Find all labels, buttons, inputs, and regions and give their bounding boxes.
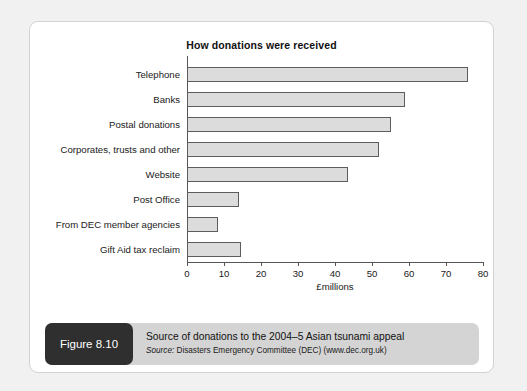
figure-number-badge: Figure 8.10 [45, 323, 133, 365]
x-axis-tick-label: 60 [394, 268, 424, 279]
bar [187, 192, 239, 207]
chart-container: How donations were received TelephoneBan… [30, 22, 493, 312]
category-label: Website [28, 170, 180, 180]
figure-caption-band: Figure 8.10 Source of donations to the 2… [45, 323, 479, 365]
source-prefix: Source: [146, 346, 174, 355]
bar [187, 92, 405, 107]
x-axis-tick-label: 40 [320, 268, 350, 279]
x-axis-tick [372, 262, 373, 266]
bar [187, 142, 379, 157]
category-axis-labels: TelephoneBanksPostal donationsCorporates… [30, 62, 185, 262]
chart-title: How donations were received [30, 39, 493, 51]
x-axis-tick [224, 262, 225, 266]
x-axis-tick-label: 50 [357, 268, 387, 279]
x-axis-tick-label: 10 [209, 268, 239, 279]
figure-caption-text: Source of donations to the 2004–5 Asian … [146, 330, 471, 356]
x-axis-title: £millions [187, 281, 483, 292]
category-label: Corporates, trusts and other [28, 145, 180, 155]
x-axis-tick [409, 262, 410, 266]
x-axis-tick [335, 262, 336, 266]
x-axis-tick-label: 70 [431, 268, 461, 279]
category-label: From DEC member agencies [28, 220, 180, 230]
x-axis-tick [187, 262, 188, 266]
x-axis-tick-label: 0 [172, 268, 202, 279]
x-axis-tick [483, 262, 484, 266]
bar [187, 242, 241, 257]
bar [187, 217, 218, 232]
x-axis-tick-label: 30 [283, 268, 313, 279]
category-label: Gift Aid tax reclaim [28, 245, 180, 255]
source-detail: Disasters Emergency Committee (DEC) (www… [174, 346, 386, 355]
x-axis-tick [298, 262, 299, 266]
x-axis-tick-label: 20 [246, 268, 276, 279]
page-root: How donations were received TelephoneBan… [0, 0, 527, 391]
x-axis-tick [446, 262, 447, 266]
plot-area: TelephoneBanksPostal donationsCorporates… [30, 62, 493, 277]
category-label: Postal donations [28, 120, 180, 130]
bar [187, 167, 348, 182]
bar [187, 117, 391, 132]
category-label: Telephone [28, 70, 180, 80]
x-axis-tick-label: 80 [468, 268, 498, 279]
bar [187, 67, 468, 82]
figure-card: How donations were received TelephoneBan… [29, 21, 494, 373]
caption-source: Source: Disasters Emergency Committee (D… [146, 346, 471, 356]
x-axis-tick [261, 262, 262, 266]
category-label: Post Office [28, 195, 180, 205]
category-label: Banks [28, 95, 180, 105]
bars-area: 01020304050607080 [187, 62, 483, 262]
caption-title: Source of donations to the 2004–5 Asian … [146, 330, 471, 343]
